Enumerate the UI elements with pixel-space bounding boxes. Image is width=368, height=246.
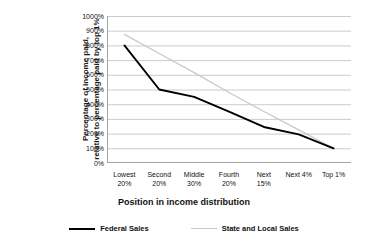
legend-label-federal: Federal Sales [100,224,148,233]
legend-line-icon-state-local [191,228,217,229]
y-axis-tick-labels: 1000%900%800%700%600%500%400%300%200%100… [64,0,104,246]
y-axis-tick-label: 100% [68,145,104,152]
x-tick-line-1: Next 4% [281,170,316,179]
x-tick-line-1: Second [142,170,177,179]
series-line-state-and-local-sales [124,34,333,148]
plot-svg [107,16,351,163]
x-tick-line-1: Middle [177,170,212,179]
y-axis-tick-label: 800% [68,42,104,49]
x-axis-tick-label: Second20% [142,170,177,188]
x-tick-line-1: Lowest [107,170,142,179]
line-chart: Percentage of income paid, relative to p… [0,0,368,246]
x-axis-tick-label: Lowest20% [107,170,142,188]
y-axis-tick-label: 1000% [68,13,104,20]
chart-legend: Federal Sales State and Local Sales [0,224,368,233]
x-tick-line-1: Fourth [212,170,247,179]
y-axis-tick-label: 200% [68,130,104,137]
x-axis-tick-label: Middle30% [177,170,212,188]
y-axis-tick-label: 900% [68,27,104,34]
x-tick-line-2: 20% [212,179,247,188]
x-axis-tick-labels: Lowest20%Second20%Middle30%Fourth20%Next… [107,167,351,191]
y-axis-tick-label: 0% [68,160,104,167]
legend-line-icon-federal [69,228,95,230]
legend-item-federal-sales: Federal Sales [69,224,148,233]
legend-item-state-and-local-sales: State and Local Sales [191,224,299,233]
legend-label-state-local: State and Local Sales [222,224,299,233]
x-axis-tick-label: Next15% [246,170,281,188]
y-axis-tick-label: 600% [68,71,104,78]
x-axis-title: Position in income distribution [0,197,368,207]
x-tick-line-1: Top 1% [316,170,351,179]
y-axis-tick-label: 400% [68,101,104,108]
x-axis-tick-label: Next 4% [281,170,316,179]
x-tick-line-2: 20% [142,179,177,188]
y-axis-tick-label: 500% [68,86,104,93]
y-axis-tick-label: 700% [68,57,104,64]
x-axis-tick-label: Fourth20% [212,170,247,188]
plot-area [107,16,351,163]
x-tick-line-2: 30% [177,179,212,188]
x-tick-line-1: Next [246,170,281,179]
y-axis-tick-label: 300% [68,115,104,122]
x-axis-tick-label: Top 1% [316,170,351,179]
x-tick-line-2: 15% [246,179,281,188]
x-tick-line-2: 20% [107,179,142,188]
